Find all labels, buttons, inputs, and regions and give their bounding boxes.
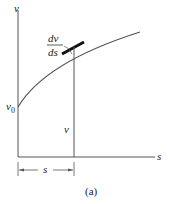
- figure-caption: (a): [85, 185, 98, 198]
- slope-denominator: ds: [48, 46, 58, 58]
- dimension-label: s: [43, 163, 47, 175]
- dimension-arrow-left: [19, 169, 24, 172]
- slope-numerator: dv: [48, 32, 59, 44]
- x-axis-label: s: [157, 150, 161, 162]
- velocity-displacement-diagram: v s dv ds v0 v s (a): [0, 0, 170, 204]
- initial-velocity-label: v0: [6, 100, 15, 115]
- dimension-arrow-right: [68, 169, 73, 172]
- ordinate-label: v: [64, 123, 69, 135]
- tangent-slope-segment: [62, 42, 84, 54]
- y-axis-label: v: [14, 2, 19, 14]
